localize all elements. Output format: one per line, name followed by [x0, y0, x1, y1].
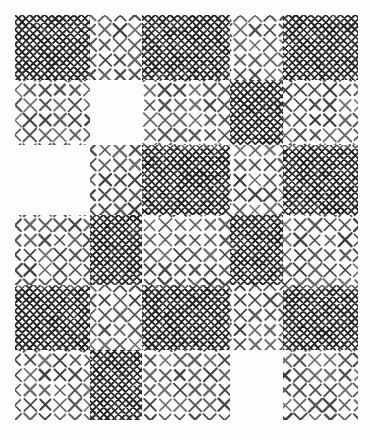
cross-hatch-pattern-svg: [0, 0, 370, 440]
pattern-canvas: Cross-hatch block pattern Black-on-white…: [0, 0, 370, 440]
